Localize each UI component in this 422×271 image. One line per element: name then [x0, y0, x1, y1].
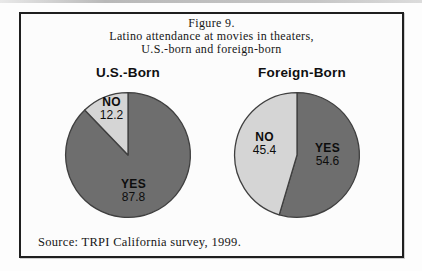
- pie-title-foreign-born: Foreign-Born: [232, 65, 372, 81]
- scanned-figure-page: Figure 9. Latino attendance at movies in…: [0, 0, 422, 271]
- slice-value: 87.8: [105, 191, 162, 204]
- slice-name: YES: [105, 178, 162, 191]
- figure-caption: Figure 9. Latino attendance at movies in…: [19, 17, 404, 56]
- slice-value: 54.6: [299, 155, 356, 168]
- slice-label-foreign-no: NO 45.4: [236, 131, 293, 156]
- figure-number: Figure 9.: [19, 17, 404, 29]
- slice-label-us-no: NO 12.2: [83, 96, 140, 121]
- slice-name: NO: [236, 131, 293, 144]
- slice-name: NO: [83, 96, 140, 109]
- slice-label-us-yes: YES 87.8: [105, 178, 162, 203]
- slice-value: 45.4: [236, 144, 293, 157]
- pie-title-us-born: U.S.-Born: [63, 65, 193, 81]
- slice-value: 12.2: [83, 109, 140, 122]
- figure-subtitle-line: U.S.-born and foreign-born: [19, 43, 404, 55]
- slice-name: YES: [299, 142, 356, 155]
- scan-artifact-band: [0, 0, 422, 3]
- figure-title-line: Latino attendance at movies in theaters,: [19, 30, 404, 42]
- source-note: Source: TRPI California survey, 1999.: [38, 235, 241, 250]
- slice-label-foreign-yes: YES 54.6: [299, 142, 356, 167]
